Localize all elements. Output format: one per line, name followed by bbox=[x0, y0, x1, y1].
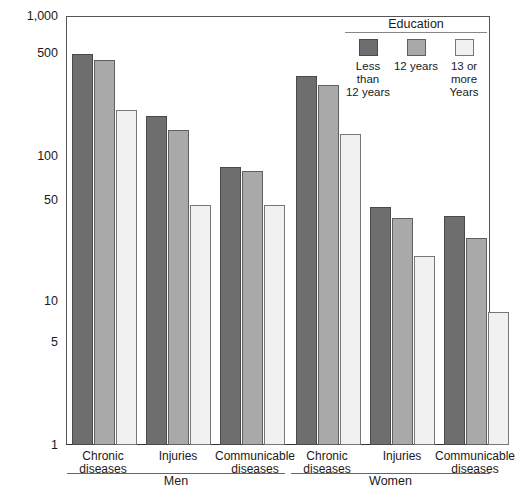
bar-women-communicable-less-than-12 bbox=[444, 216, 465, 445]
legend-rule bbox=[345, 32, 487, 33]
bar-women-chronic-less-than-12 bbox=[296, 76, 317, 445]
bar-men-injuries-12-years bbox=[168, 130, 189, 445]
bar-women-injuries-12-years bbox=[392, 218, 413, 446]
legend-label-line1: 13 or more bbox=[441, 60, 487, 86]
group-label-men: Men bbox=[67, 474, 285, 488]
bar-women-communicable-12-years bbox=[466, 238, 487, 445]
bar-men-communicable-less-than-12 bbox=[220, 167, 241, 445]
bar-men-communicable-13-or-more bbox=[264, 205, 285, 445]
bar-women-chronic-12-years bbox=[318, 85, 339, 445]
legend-item-12-years[interactable]: 12 years bbox=[393, 39, 439, 99]
group-label-women: Women bbox=[291, 474, 490, 488]
bar-women-communicable-13-or-more bbox=[488, 312, 509, 445]
bar-women-injuries-less-than-12 bbox=[370, 207, 391, 445]
legend-item-13-or-more-years[interactable]: 13 or more Years bbox=[441, 39, 487, 99]
light-gray-swatch-icon bbox=[455, 39, 474, 56]
legend-label-line1: 12 years bbox=[393, 60, 439, 73]
bar-men-injuries-less-than-12 bbox=[146, 116, 167, 445]
bar-men-injuries-13-or-more bbox=[190, 205, 211, 445]
legend-title: Education bbox=[345, 17, 487, 31]
bar-men-chronic-less-than-12 bbox=[72, 54, 93, 445]
dark-gray-swatch-icon bbox=[359, 39, 378, 56]
legend-label-line1: Less than bbox=[345, 60, 391, 86]
legend-items: Less than 12 years 12 years 13 or more Y… bbox=[345, 39, 487, 99]
bar-men-chronic-13-or-more bbox=[116, 110, 137, 445]
legend-label-line2: 12 years bbox=[345, 86, 391, 99]
legend-item-less-than-12-years[interactable]: Less than 12 years bbox=[345, 39, 391, 99]
legend-label-line2: Years bbox=[441, 86, 487, 99]
medium-gray-swatch-icon bbox=[407, 39, 426, 56]
bar-women-chronic-13-or-more bbox=[340, 134, 361, 445]
bar-men-chronic-12-years bbox=[94, 60, 115, 445]
bar-men-communicable-12-years bbox=[242, 171, 263, 445]
bar-women-injuries-13-or-more bbox=[414, 256, 435, 445]
legend: Education Less than 12 years 12 years 13… bbox=[345, 17, 487, 99]
